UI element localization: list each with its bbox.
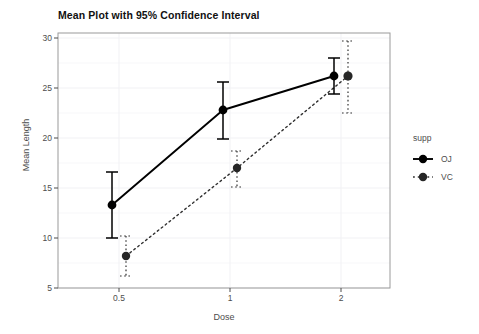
legend-label-oj: OJ [434, 154, 452, 164]
legend-item-vc[interactable]: VC [412, 168, 476, 186]
legend: supp OJ VC [412, 133, 476, 186]
legend-title: supp [412, 133, 476, 143]
legend-key-vc-icon [412, 168, 434, 186]
y-axis-ticks [54, 38, 58, 288]
x-axis-ticks [119, 288, 341, 292]
legend-label-vc: VC [434, 172, 453, 182]
plot-area [0, 0, 479, 334]
legend-item-oj[interactable]: OJ [412, 150, 476, 168]
panel-background [58, 33, 390, 288]
mean-plot-chart: Mean Plot with 95% Confidence Interval M… [0, 0, 479, 334]
legend-key-oj-icon [412, 150, 434, 168]
